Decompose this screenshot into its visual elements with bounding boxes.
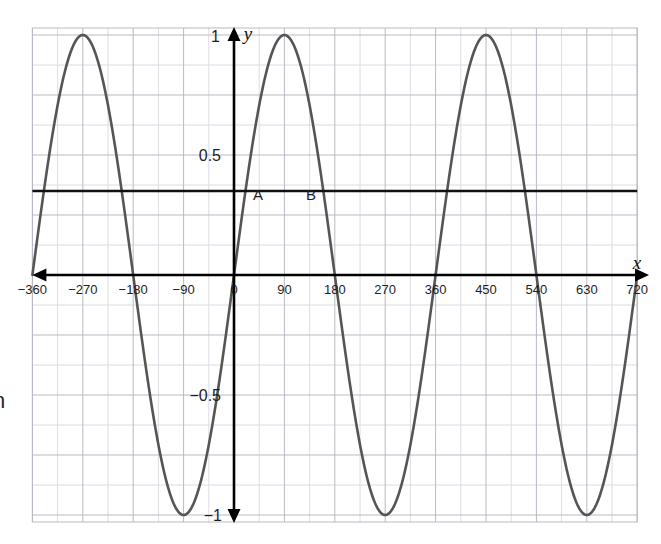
left-margin-text-fragment: n — [0, 388, 13, 414]
x-tick-label: −360 — [18, 282, 47, 297]
x-tick-label: 0 — [230, 282, 237, 297]
x-tick-label: 720 — [626, 282, 648, 297]
point-label-b: B — [306, 186, 316, 203]
x-tick-label: 360 — [425, 282, 447, 297]
y-tick-label: −1 — [204, 507, 222, 524]
x-tick-label: 270 — [374, 282, 396, 297]
x-tick-label: −270 — [68, 282, 97, 297]
sine-graph-svg: −360−270−180−90090180270360450540630720 … — [0, 0, 661, 544]
point-label-a: A — [253, 186, 263, 203]
x-axis-label: x — [632, 252, 642, 273]
x-tick-label: 540 — [526, 282, 548, 297]
x-tick-label: 180 — [324, 282, 346, 297]
x-tick-label: 90 — [277, 282, 291, 297]
x-tick-label: 630 — [576, 282, 598, 297]
y-tick-label: 0.5 — [199, 147, 221, 164]
y-tick-label: 1 — [211, 28, 220, 45]
x-tick-label: −180 — [119, 282, 148, 297]
x-tick-label: 450 — [475, 282, 497, 297]
x-tick-label: −90 — [173, 282, 195, 297]
y-tick-label: −0.5 — [189, 387, 221, 404]
chart-figure: −360−270−180−90090180270360450540630720 … — [0, 0, 661, 544]
y-axis-label: y — [242, 23, 253, 44]
